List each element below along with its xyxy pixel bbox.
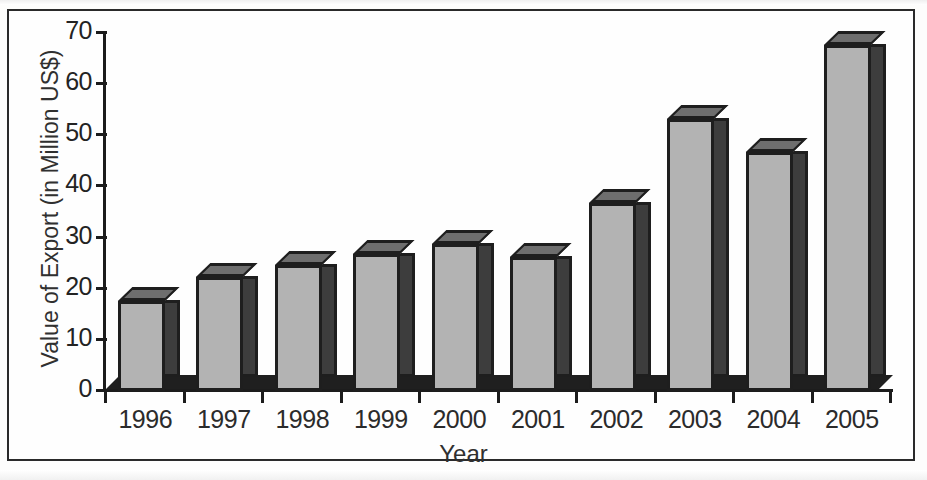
bar-side-face	[243, 276, 258, 377]
bar-front-face	[510, 257, 557, 391]
x-axis-tick	[497, 391, 500, 403]
x-axis-tick	[732, 391, 735, 403]
bar-side-face	[165, 300, 180, 378]
y-axis-tick	[96, 338, 107, 341]
bar-front-face	[118, 301, 165, 392]
bar-top-face	[589, 189, 650, 203]
bar-side-face	[714, 118, 729, 377]
y-axis-title: Value of Export (in Million US$)	[37, 9, 64, 409]
bar-side-face	[322, 264, 337, 377]
x-axis-tick	[104, 391, 107, 403]
x-axis-tick	[340, 391, 343, 403]
x-axis-title: Year	[0, 440, 927, 468]
bar-front-face	[432, 244, 479, 391]
bar-top-face	[510, 243, 571, 257]
bar-top-face	[746, 138, 807, 152]
bar	[196, 277, 243, 391]
bar-side-face	[557, 256, 572, 377]
x-axis-tick	[418, 391, 421, 403]
bar	[589, 203, 636, 391]
bar-front-face	[667, 119, 714, 391]
bar-top-face	[824, 31, 885, 45]
y-axis-tick	[96, 184, 107, 187]
bar-top-face	[432, 230, 493, 244]
bar-top-face	[353, 240, 414, 254]
bar	[824, 45, 871, 391]
y-axis-tick	[96, 236, 107, 239]
bar	[667, 119, 714, 391]
bar	[353, 254, 400, 391]
x-axis-tick	[811, 391, 814, 403]
bar-front-face	[353, 254, 400, 391]
x-axis-tick	[889, 391, 892, 403]
scanned-page: 010203040506070 199619971998199920002001…	[0, 0, 927, 480]
x-axis-tick	[183, 391, 186, 403]
bar-top-face	[667, 105, 728, 119]
x-axis-tick	[654, 391, 657, 403]
bar	[118, 301, 165, 392]
bar-top-face	[118, 287, 179, 301]
bar-side-face	[400, 253, 415, 377]
bar	[432, 244, 479, 391]
bar-front-face	[589, 203, 636, 391]
bar-top-face	[275, 251, 336, 265]
bar-front-face	[824, 45, 871, 391]
bar-side-face	[793, 151, 808, 377]
bar-front-face	[196, 277, 243, 391]
y-axis-tick	[96, 31, 107, 34]
x-axis-tick-label: 2005	[797, 405, 907, 434]
bar-chart-plot-area: 010203040506070 199619971998199920002001…	[0, 0, 927, 480]
x-axis-tick	[575, 391, 578, 403]
y-axis-tick	[96, 133, 107, 136]
bar	[746, 152, 793, 391]
y-axis-tick	[96, 82, 107, 85]
bar-front-face	[275, 265, 322, 391]
y-axis-tick	[96, 287, 107, 290]
bar	[275, 265, 322, 391]
bar-side-face	[479, 243, 494, 377]
bar-side-face	[636, 202, 651, 377]
bar	[510, 257, 557, 391]
bar-front-face	[746, 152, 793, 391]
x-axis-tick	[261, 391, 264, 403]
bar-side-face	[871, 44, 886, 377]
bar-top-face	[196, 263, 257, 277]
